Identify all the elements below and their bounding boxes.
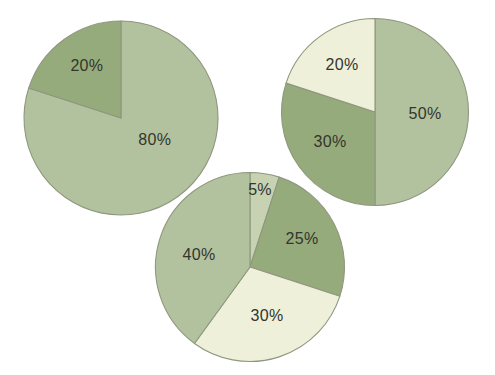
pie-slice-label: 40%	[183, 246, 216, 263]
pie-top-left: 80%20%	[24, 21, 218, 215]
pie-slice-label: 30%	[251, 307, 284, 324]
pie-slice-label: 25%	[286, 230, 319, 247]
pie-slice-label: 30%	[314, 133, 347, 150]
pie-bottom-center: 5%25%30%40%	[155, 173, 344, 362]
pie-charts-figure: 80%20%50%30%20%5%25%30%40%	[0, 0, 495, 375]
pie-slice-label: 20%	[326, 56, 359, 73]
pie-slice-label: 5%	[248, 181, 272, 198]
pie-slice-label: 20%	[70, 57, 103, 74]
pie-slice-label: 50%	[409, 105, 442, 122]
pie-slice-label: 80%	[138, 131, 171, 148]
pie-charts-svg: 80%20%50%30%20%5%25%30%40%	[0, 0, 495, 375]
pie-top-right: 50%30%20%	[282, 19, 469, 206]
